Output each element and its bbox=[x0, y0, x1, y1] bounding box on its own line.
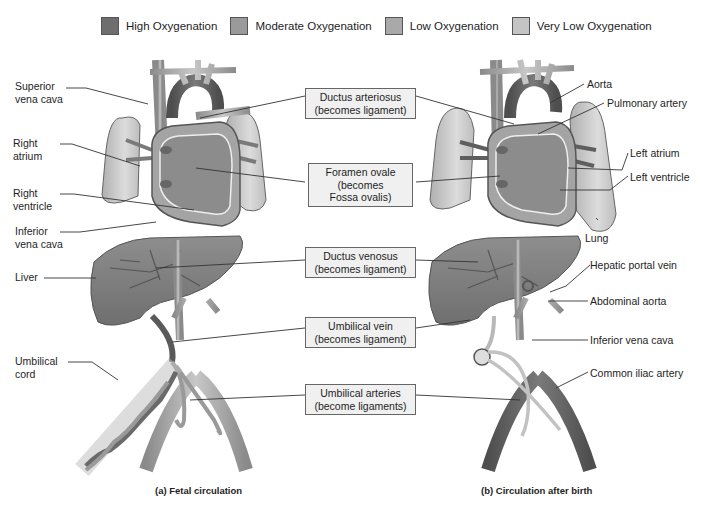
label-line: Right bbox=[13, 187, 52, 200]
label-aorta: Aorta bbox=[587, 78, 612, 91]
label-inferior-vena-cava-right: Inferior vena cava bbox=[590, 334, 673, 347]
label-line: ventricle bbox=[13, 200, 52, 213]
label-line: vena cava bbox=[15, 238, 63, 251]
label-umbilical-cord: Umbilical cord bbox=[15, 355, 58, 380]
box-umbilical-arteries: Umbilical arteries (become ligaments) bbox=[305, 384, 416, 415]
label-line: Right bbox=[13, 137, 42, 150]
box-line: Umbilical vein bbox=[310, 320, 411, 333]
box-foramen-ovale: Foramen ovale (becomes Fossa ovalis) bbox=[308, 163, 413, 207]
label-line: vena cava bbox=[15, 93, 63, 106]
label-right-ventricle: Right ventricle bbox=[13, 187, 52, 212]
box-line: Fossa ovalis) bbox=[313, 191, 408, 204]
label-line: Inferior bbox=[15, 225, 63, 238]
label-common-iliac-artery: Common iliac artery bbox=[590, 367, 683, 380]
caption-after-birth: (b) Circulation after birth bbox=[481, 485, 592, 496]
box-line: (become ligaments) bbox=[310, 400, 411, 413]
box-line: Umbilical arteries bbox=[310, 387, 411, 400]
box-umbilical-vein: Umbilical vein (becomes ligament) bbox=[305, 317, 416, 348]
label-line: Umbilical bbox=[15, 355, 58, 368]
box-ductus-arteriosus: Ductus arteriosus (becomes ligament) bbox=[305, 88, 416, 119]
label-left-atrium: Left atrium bbox=[630, 147, 680, 160]
label-superior-vena-cava: Superior vena cava bbox=[15, 80, 63, 105]
fetal-circulation-figure bbox=[82, 60, 266, 470]
box-line: Ductus venosus bbox=[310, 250, 411, 263]
label-abdominal-aorta: Abdominal aorta bbox=[590, 295, 666, 308]
box-line: Ductus arteriosus bbox=[310, 91, 411, 104]
label-inferior-vena-cava-left: Inferior vena cava bbox=[15, 225, 63, 250]
label-right-atrium: Right atrium bbox=[13, 137, 42, 162]
label-hepatic-portal-vein: Hepatic portal vein bbox=[590, 259, 677, 272]
box-line: (becomes bbox=[313, 179, 408, 192]
caption-fetal-circulation: (a) Fetal circulation bbox=[155, 485, 242, 496]
label-line: Superior bbox=[15, 80, 63, 93]
box-line: (becomes ligament) bbox=[310, 263, 411, 276]
label-lung: Lung bbox=[585, 232, 608, 245]
box-ductus-venosus: Ductus venosus (becomes ligament) bbox=[305, 247, 416, 278]
label-line: atrium bbox=[13, 150, 42, 163]
label-liver: Liver bbox=[15, 271, 38, 284]
label-pulmonary-artery: Pulmonary artery bbox=[607, 97, 687, 110]
label-left-ventricle: Left ventricle bbox=[630, 171, 690, 184]
after-birth-figure bbox=[429, 60, 616, 470]
box-line: Foramen ovale bbox=[313, 166, 408, 179]
box-line: (becomes ligament) bbox=[310, 104, 411, 117]
label-line: cord bbox=[15, 368, 58, 381]
box-line: (becomes ligament) bbox=[310, 333, 411, 346]
